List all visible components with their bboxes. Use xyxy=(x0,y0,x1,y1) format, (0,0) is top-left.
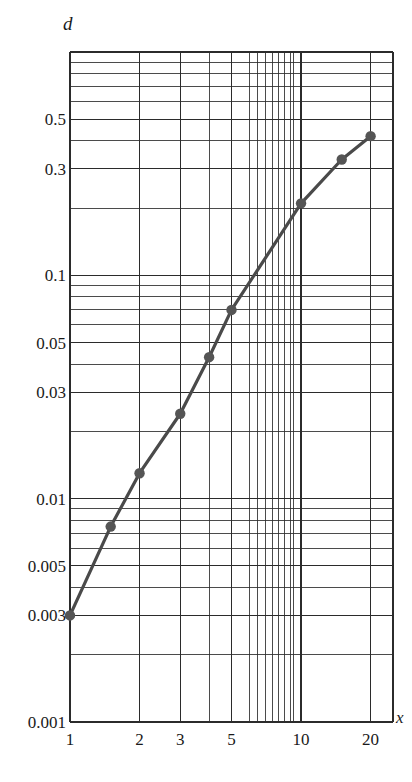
data-point-marker xyxy=(134,468,144,478)
x-axis-variable-label: x xyxy=(396,709,404,726)
y-axis-tick-label: 0.01 xyxy=(36,490,66,507)
y-axis-variable-label: d xyxy=(63,14,73,33)
data-point-marker xyxy=(337,154,347,164)
x-axis-tick-label: 20 xyxy=(362,731,379,748)
data-point-marker xyxy=(204,352,214,362)
grid-minor-vertical xyxy=(209,52,294,722)
x-axis-tick-label: 5 xyxy=(227,731,236,748)
data-markers xyxy=(65,131,376,621)
data-point-marker xyxy=(296,198,306,208)
data-point-marker xyxy=(65,610,75,620)
grid-major-vertical xyxy=(70,52,371,722)
y-axis-tick-label: 0.05 xyxy=(36,334,66,351)
y-axis-tick-label: 0.03 xyxy=(36,384,66,401)
data-point-marker xyxy=(175,409,185,419)
x-axis-tick-label: 3 xyxy=(176,731,185,748)
y-axis-tick-label: 0.5 xyxy=(45,111,66,128)
y-axis-tick-label: 0.001 xyxy=(28,714,66,731)
y-axis-tick-label: 0.003 xyxy=(28,607,66,624)
x-axis-tick-label: 2 xyxy=(135,731,144,748)
x-axis-tick-label: 10 xyxy=(293,731,310,748)
figure-log-log-plot: d x 0.50.30.10.050.030.010.0050.0030.001… xyxy=(0,0,412,782)
x-axis-tick-label: 1 xyxy=(66,731,75,748)
data-point-marker xyxy=(365,131,375,141)
y-axis-tick-label: 0.3 xyxy=(45,160,66,177)
y-axis-tick-label: 0.1 xyxy=(45,267,66,284)
data-point-marker xyxy=(226,305,236,315)
y-axis-tick-label: 0.005 xyxy=(28,557,66,574)
data-point-marker xyxy=(105,521,115,531)
